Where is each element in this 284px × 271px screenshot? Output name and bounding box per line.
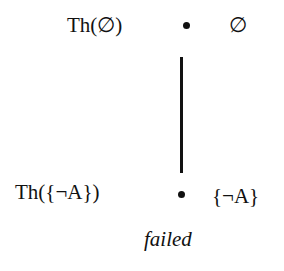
top-set-label: ∅ xyxy=(229,15,247,36)
node-edge-line xyxy=(180,57,183,173)
top-theory-label: Th(∅) xyxy=(67,15,122,36)
bottom-node-dot xyxy=(178,191,185,198)
failed-caption: failed xyxy=(144,229,192,250)
top-node-dot xyxy=(183,22,190,29)
bottom-theory-label: Th({¬A}) xyxy=(15,182,99,203)
bottom-set-label: {¬A} xyxy=(212,186,259,207)
